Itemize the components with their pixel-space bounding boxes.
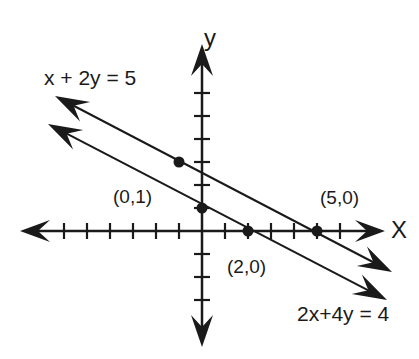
point-dot (174, 157, 185, 168)
point-dot (312, 226, 323, 237)
point-label-5-0: (5,0) (320, 188, 359, 207)
line-arrow-icon (352, 275, 387, 300)
equation-line-lower (66, 133, 369, 291)
point-dot (243, 226, 254, 237)
point-dot (197, 203, 208, 214)
point-label-2-0: (2,0) (227, 257, 266, 276)
y-axis-label: y (204, 26, 216, 50)
line-label-lower: 2x+4y = 4 (297, 303, 389, 324)
point-label-0-1: (0,1) (113, 187, 152, 206)
line-arrow-icon (357, 247, 392, 272)
line-label-upper: x + 2y = 5 (44, 67, 136, 88)
line-arrow-icon (48, 124, 83, 149)
x-axis-label: X (391, 218, 407, 242)
equation-line-upper (73, 105, 375, 262)
line-arrow-icon (55, 96, 90, 121)
